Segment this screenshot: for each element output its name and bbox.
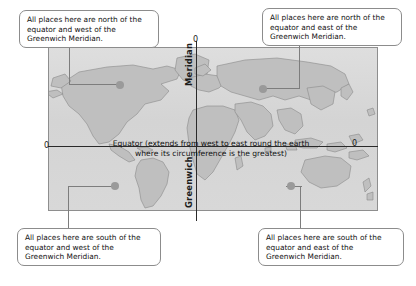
leader-line-north-west-vertical <box>69 48 70 85</box>
callout-south-east-line2: equator and east of the <box>266 243 397 253</box>
callout-north-east-line1: All places here are north of the <box>270 13 395 23</box>
callout-south-east-line3: Greenwich Meridian. <box>266 252 397 262</box>
leader-line-north-west-horizontal <box>69 84 119 85</box>
callout-south-east-line1: All places here are south of the <box>266 233 397 243</box>
greenwich-meridian-line <box>196 41 197 221</box>
callout-north-west-line3: Greenwich Meridian. <box>27 34 152 44</box>
callout-south-west-line1: All places here are south of the <box>25 233 154 243</box>
callout-south-west-line3: Greenwich Meridian. <box>25 252 154 262</box>
zero-marker-left: 0 <box>44 142 49 150</box>
leader-dot-south-west <box>111 182 119 190</box>
callout-north-east: All places here are north of the equator… <box>262 8 402 46</box>
meridian-label-upper: Meridian <box>184 43 194 86</box>
leader-line-south-west-horizontal <box>68 186 114 187</box>
callout-south-west: All places here are south of the equator… <box>17 228 161 266</box>
leader-dot-north-west <box>116 81 124 89</box>
leader-line-north-east-horizontal <box>263 88 300 89</box>
equator-label: Equator (extends from west to east round… <box>100 139 322 158</box>
callout-north-west-line2: equator and west of the <box>27 25 152 35</box>
leader-dot-north-east <box>259 85 267 93</box>
callout-north-west: All places here are north of the equator… <box>19 10 159 48</box>
leader-dot-south-east <box>287 182 295 190</box>
zero-marker-right: 0 <box>352 140 357 148</box>
leader-line-south-west-vertical <box>68 186 69 228</box>
callout-north-west-line1: All places here are north of the <box>27 15 152 25</box>
equator-label-line2: where its circumference is the greatest) <box>100 149 322 159</box>
callout-south-east: All places here are south of the equator… <box>258 228 404 266</box>
callout-south-west-line2: equator and west of the <box>25 243 154 253</box>
diagram-canvas: 0 0 0 Equator (extends from west to east… <box>0 0 416 286</box>
leader-line-south-east-vertical <box>300 186 301 228</box>
callout-north-east-line2: equator and east of the <box>270 23 395 33</box>
equator-label-line1: Equator (extends from west to east round… <box>113 139 310 148</box>
leader-line-north-east-vertical <box>299 46 300 88</box>
meridian-label-lower: Greenwich <box>184 156 194 208</box>
callout-north-east-line3: Greenwich Meridian. <box>270 32 395 42</box>
